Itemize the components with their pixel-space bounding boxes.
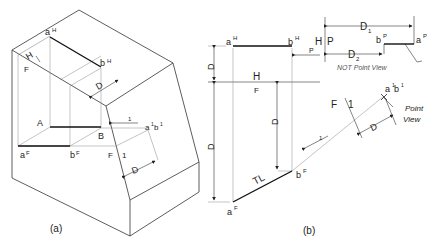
svg-text:F: F [108,151,113,160]
svg-text:P: P [327,36,334,47]
svg-text:B: B [98,131,104,141]
svg-text:a: a [145,123,150,132]
svg-text:TL: TL [251,171,267,186]
svg-text:F: F [26,150,30,156]
panel-a-dimension-arrows [36,56,155,176]
svg-text:1: 1 [368,28,372,34]
svg-text:a: a [227,207,232,217]
svg-text:1: 1 [128,116,132,122]
svg-text:b: b [376,35,381,45]
svg-text:F: F [303,168,307,174]
svg-text:H: H [24,50,35,62]
svg-text:b: b [288,37,293,47]
svg-text:D: D [94,80,105,92]
panel-a-projection-lines [18,36,158,160]
svg-text:a: a [20,150,25,160]
svg-text:a: a [226,37,231,47]
svg-text:P: P [309,47,314,54]
svg-text:F: F [24,65,29,74]
svg-text:P: P [383,33,387,39]
svg-text:1: 1 [122,151,127,160]
svg-text:F: F [76,150,80,156]
svg-text:D: D [206,143,216,150]
svg-text:b: b [154,123,159,132]
svg-text:F: F [254,86,259,95]
panel-b-labels: a H b H H P P D 1 D 2 b P a P NOT Point … [206,21,427,236]
svg-text:H: H [315,36,322,47]
svg-text:H: H [253,71,260,82]
svg-text:H: H [295,35,299,41]
svg-text:1: 1 [401,82,404,88]
panel-b-lines [208,16,414,202]
svg-text:D: D [348,49,355,60]
svg-text:H: H [107,58,111,64]
svg-text:a: a [416,35,421,45]
panel-b-caption: (b) [303,225,315,236]
panel-a-caption: (a) [50,223,62,234]
svg-text:A: A [37,118,43,128]
svg-text:a: a [45,27,50,37]
svg-text:D: D [130,164,140,176]
panel-a-labels: a H b H H F D A B a F b F F 1 D 1 a 1 b … [20,27,163,234]
svg-text:b: b [70,150,75,160]
svg-text:1: 1 [348,99,354,110]
svg-text:P: P [423,33,427,39]
svg-text:F: F [331,99,337,110]
svg-text:View: View [403,115,421,124]
svg-text:1: 1 [160,121,163,127]
panel-b-dimension-arrows [214,26,422,200]
svg-text:H: H [52,27,56,33]
svg-text:b: b [100,58,105,68]
svg-text:F: F [234,205,238,211]
svg-text:Point: Point [405,104,424,113]
svg-text:D: D [360,21,367,32]
svg-text:NOT Point View: NOT Point View [337,64,388,71]
svg-text:b: b [394,84,399,94]
svg-text:H: H [233,35,237,41]
point-view-marker [381,94,387,100]
svg-text:b: b [296,170,301,180]
svg-text:D: D [206,63,216,70]
svg-text:2: 2 [356,56,360,62]
svg-text:1: 1 [319,135,323,141]
descriptive-geometry-figure: a H b H H F D A B a F b F F 1 D 1 a 1 b … [0,0,437,246]
svg-text:D: D [270,118,280,125]
svg-text:a: a [385,84,390,94]
svg-text:D: D [369,121,380,133]
